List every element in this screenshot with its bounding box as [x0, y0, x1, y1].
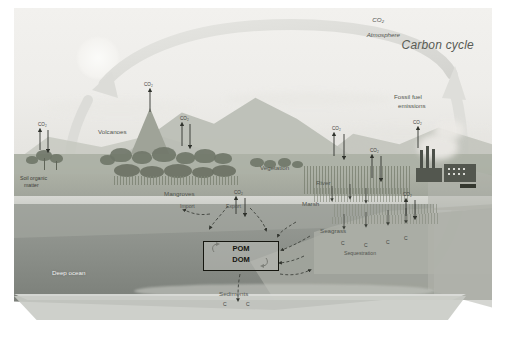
flux-arrow-layer — [14, 8, 492, 320]
co2-text: CO₂ — [180, 116, 189, 121]
co2-text: CO₂ — [234, 190, 243, 195]
co2-marker-marsh: CO₂ — [370, 148, 379, 153]
carbon-marker-sediment-1: C — [223, 301, 227, 307]
deep-ocean-label: Deep ocean — [52, 270, 85, 277]
mangroves-label: Mangroves — [164, 191, 195, 198]
co2-text: CO₂ — [332, 126, 341, 131]
pom-label: POM — [204, 244, 278, 253]
marsh-label: Marsh — [302, 201, 319, 208]
co2-text: CO₂ — [370, 148, 379, 153]
fossil-fuel-label-line1: Fossil fuel — [394, 94, 422, 101]
co2-marker-vegetation: CO₂ — [332, 126, 341, 131]
river-label: River — [316, 180, 330, 187]
co2-text: CO₂ — [38, 122, 47, 127]
figure-canvas: CO₂ Atmosphere Carbon cycle Volcanoes So… — [0, 0, 512, 337]
co2-text: CO₂ — [413, 120, 422, 125]
carbon-marker-seq-4: C — [404, 235, 408, 241]
co2-marker-volcano: CO₂ — [144, 82, 153, 87]
co2-marker-fossil-fuel: CO₂ — [413, 120, 422, 125]
vegetation-label: Vegetation — [260, 165, 289, 172]
dom-label: DOM — [204, 255, 278, 264]
sediments-label: Sediments — [219, 291, 248, 298]
carbon-marker-seq-3: C — [386, 239, 390, 245]
volcanoes-label: Volcanoes — [98, 129, 127, 136]
export-label: Export — [226, 204, 241, 209]
soil-organic-matter-label-line1: Soil organic — [20, 176, 47, 181]
pom-dom-box: POM DOM — [203, 241, 279, 271]
co2-marker-mangroves: CO₂ — [234, 190, 243, 195]
atmosphere-co2-label: CO₂ — [372, 17, 384, 24]
carbon-marker-seq-1: C — [341, 240, 345, 246]
seagrass-label: Seagrass — [320, 228, 346, 235]
co2-marker-forest: CO₂ — [180, 116, 189, 121]
soil-organic-matter-label-line2: matter — [24, 183, 39, 188]
import-label: Import — [180, 204, 195, 209]
c-sequestration-label: Sequestration — [344, 251, 376, 256]
carbon-marker-sediment-2: C — [246, 301, 250, 307]
co2-text: CO₂ — [403, 192, 412, 197]
co2-text: CO₂ — [144, 82, 153, 87]
figure-title: Carbon cycle — [402, 38, 474, 52]
carbon-marker-seq-2: C — [364, 242, 368, 248]
co2-marker-soil: CO₂ — [38, 122, 47, 127]
atmosphere-label: Atmosphere — [367, 32, 400, 39]
fossil-fuel-label-line2: emissions — [398, 103, 426, 110]
carbon-cycle-illustration: CO₂ Atmosphere Carbon cycle Volcanoes So… — [14, 8, 492, 320]
co2-marker-seagrass: CO₂ — [403, 192, 412, 197]
